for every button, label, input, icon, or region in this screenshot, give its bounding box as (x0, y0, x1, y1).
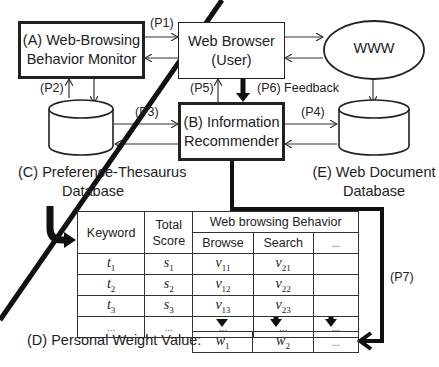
webdoc-db-caption: (E) Web Document Database (310, 163, 438, 201)
browser-label-line1: Web Browser (188, 32, 275, 51)
weight-w2: w2 (253, 332, 313, 353)
header-search: Search (253, 233, 313, 254)
header-keyword: Keyword (78, 212, 145, 254)
personal-weight-table: w1 w2 ... (192, 331, 359, 353)
header-browse: Browse (193, 233, 253, 254)
edge-label-p1: (P1) (150, 16, 174, 30)
www-node: WWW (324, 40, 424, 56)
header-web-browsing-behavior: Web browsing Behavior (193, 212, 359, 233)
table-row: t3 s3 v13 v23 (78, 296, 359, 317)
edge-label-p6-feedback: (P6) Feedback (257, 81, 339, 95)
recommender-label-line2: Recommender (184, 132, 280, 151)
monitor-label-line2: Behavior Monitor (23, 50, 140, 69)
monitor-label-line1: (A) Web-Browsing (23, 31, 140, 50)
weight-w1: w1 (193, 332, 253, 353)
web-browser-user: Web Browser (User) (178, 22, 285, 79)
edge-label-p5: (P5) (190, 81, 214, 95)
header-more: ... (313, 233, 358, 254)
browser-label-line2: (User) (188, 51, 275, 70)
thesaurus-db-caption: (C) Preference-Thesaurus Database (18, 163, 168, 201)
table-row: t2 s2 v12 v22 (78, 275, 359, 296)
keyword-score-table: Keyword TotalScore Web browsing Behavior… (77, 211, 359, 338)
information-recommender: (B) Information Recommender (178, 102, 285, 161)
edge-label-p7: (P7) (390, 270, 414, 284)
table-row: t1 s1 v11 v21 (78, 254, 359, 275)
thesaurus-db-cylinder (49, 100, 113, 155)
edge-label-p2: (P2) (40, 81, 64, 95)
personal-weight-label: (D) Personal Weight Value: (27, 332, 201, 348)
edge-label-p4: (P4) (301, 105, 325, 119)
weight-more: ... (313, 332, 358, 353)
web-browsing-behavior-monitor: (A) Web-Browsing Behavior Monitor (18, 21, 145, 79)
edge-label-p3: (P3) (135, 105, 159, 119)
webdoc-db-cylinder (339, 100, 409, 155)
recommender-label-line1: (B) Information (184, 113, 280, 132)
www-label: WWW (353, 40, 394, 56)
header-total-score: TotalScore (145, 212, 193, 254)
